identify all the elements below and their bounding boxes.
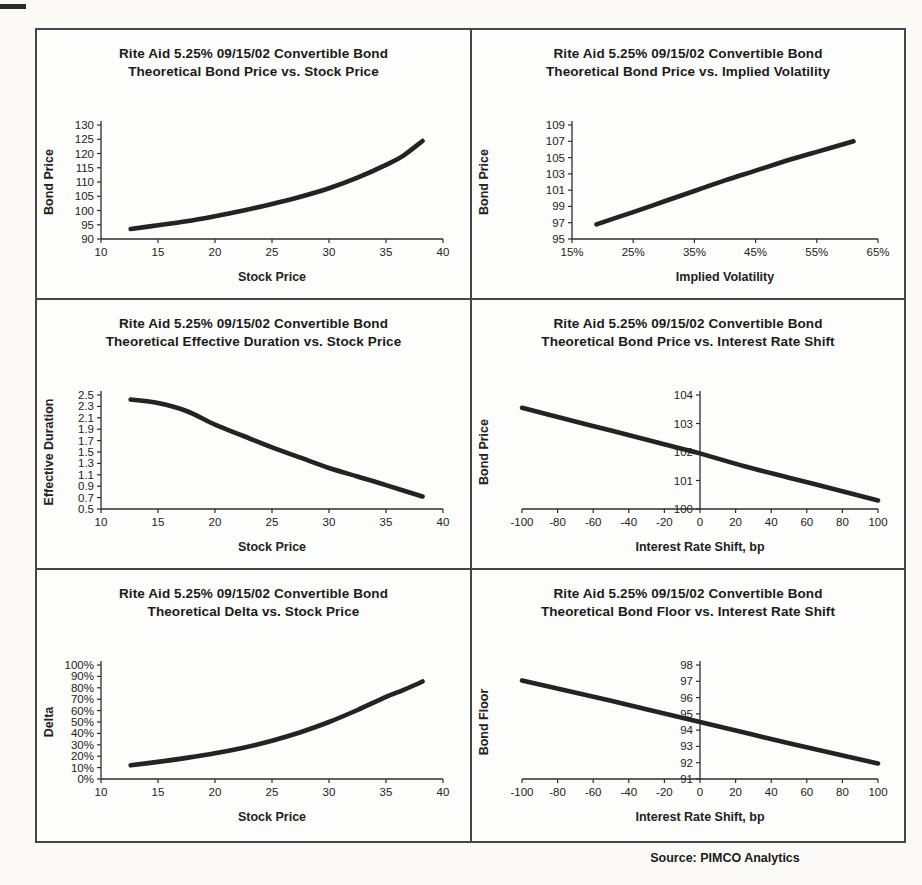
y-axis-title: Delta [42, 706, 56, 738]
y-tick-label: 110 [76, 176, 94, 188]
x-tick-label: 15 [152, 516, 165, 528]
x-tick-label: 25 [266, 786, 279, 798]
x-tick-label: 20 [209, 786, 222, 798]
x-tick-label: 60 [800, 516, 813, 528]
y-tick-label: 93 [680, 740, 693, 752]
y-tick-label: 40% [71, 727, 94, 739]
y-tick-label: 20% [71, 750, 94, 762]
y-tick-label: 80% [71, 682, 94, 694]
y-tick-label: 120 [75, 148, 94, 160]
x-tick-label: 55% [805, 246, 828, 258]
y-tick-label: 96 [680, 692, 693, 704]
y-tick-label: 30% [71, 739, 94, 751]
y-tick-label: 2.3 [78, 400, 94, 412]
y-tick-label: 95 [81, 219, 94, 231]
y-tick-label: 100 [674, 503, 693, 515]
x-tick-label: 20 [209, 516, 222, 528]
y-tick-label: 50% [71, 716, 94, 728]
plot-bond-price-vs-implied-volatility: 95979910110310510710915%25%35%45%55%65%B… [472, 93, 904, 295]
x-tick-label: 15 [152, 246, 165, 258]
y-tick-label: 101 [546, 184, 565, 196]
y-tick-label: 130 [75, 119, 94, 131]
chart-panel-bond-price-vs-stock-price: Rite Aid 5.25% 09/15/02 Convertible Bond… [37, 30, 472, 300]
x-tick-label: 100 [868, 786, 887, 798]
x-tick-label: 30 [323, 516, 336, 528]
chart-title: Rite Aid 5.25% 09/15/02 Convertible Bond… [472, 300, 904, 351]
chart-title-line1: Rite Aid 5.25% 09/15/02 Convertible Bond [37, 45, 470, 63]
chart-panel-bond-floor-vs-interest-rate-shift: Rite Aid 5.25% 09/15/02 Convertible Bond… [472, 570, 904, 841]
y-tick-label: 125 [75, 133, 94, 145]
scan-artifact [0, 4, 26, 9]
chart-title-line1: Rite Aid 5.25% 09/15/02 Convertible Bond [37, 585, 470, 603]
x-tick-label: -40 [620, 516, 637, 528]
x-tick-label: 35 [380, 246, 393, 258]
y-tick-label: 1.7 [78, 435, 94, 447]
y-tick-label: 1.1 [78, 469, 94, 481]
x-tick-label: 35 [380, 516, 393, 528]
chart-title-line1: Rite Aid 5.25% 09/15/02 Convertible Bond [472, 585, 904, 603]
x-tick-label: 60 [800, 786, 813, 798]
x-tick-label: 30 [323, 246, 336, 258]
x-tick-label: 10 [95, 246, 108, 258]
x-tick-label: -80 [549, 516, 566, 528]
y-tick-label: 103 [546, 168, 565, 180]
x-axis-title: Stock Price [238, 270, 306, 284]
chart-title-line2: Theoretical Delta vs. Stock Price [37, 603, 470, 621]
y-axis-title: Effective Duration [42, 399, 56, 506]
chart-title: Rite Aid 5.25% 09/15/02 Convertible Bond… [472, 570, 904, 621]
y-tick-label: 2.5 [78, 389, 94, 401]
x-tick-label: -40 [620, 786, 637, 798]
x-tick-label: 35 [380, 786, 393, 798]
x-tick-label: 20 [729, 786, 742, 798]
chart-panel-delta-vs-stock-price: Rite Aid 5.25% 09/15/02 Convertible Bond… [37, 570, 472, 841]
y-tick-label: 90 [81, 233, 94, 245]
x-tick-label: 80 [836, 786, 849, 798]
chart-panel-bond-price-vs-interest-rate-shift: Rite Aid 5.25% 09/15/02 Convertible Bond… [472, 300, 904, 570]
series-line [131, 141, 423, 229]
y-tick-label: 90% [71, 670, 94, 682]
x-tick-label: -80 [549, 786, 566, 798]
x-tick-label: -20 [656, 516, 673, 528]
chart-title-line1: Rite Aid 5.25% 09/15/02 Convertible Bond [472, 315, 904, 333]
y-tick-label: 105 [75, 190, 94, 202]
x-axis-title: Stock Price [238, 810, 306, 824]
x-tick-label: 25% [622, 246, 645, 258]
y-tick-label: 98 [680, 659, 693, 671]
y-tick-label: 99 [552, 200, 565, 212]
x-tick-label: 25 [266, 516, 279, 528]
y-tick-label: 0% [77, 773, 94, 785]
chart-panel-effective-duration-vs-stock-price: Rite Aid 5.25% 09/15/02 Convertible Bond… [37, 300, 472, 570]
y-tick-label: 95 [552, 233, 565, 245]
chart-title-line2: Theoretical Bond Floor vs. Interest Rate… [472, 603, 904, 621]
x-tick-label: 10 [95, 516, 108, 528]
plot-bond-price-vs-interest-rate-shift: 100101102103104-100-80-60-40-20020406080… [472, 363, 904, 565]
x-tick-label: -60 [585, 786, 602, 798]
y-tick-label: 0.5 [78, 503, 94, 515]
y-tick-label: 60% [71, 705, 94, 717]
x-axis-title: Stock Price [238, 540, 306, 554]
x-tick-label: 40 [765, 786, 778, 798]
report-sheet: Rite Aid 5.25% 09/15/02 Convertible Bond… [0, 0, 922, 885]
x-tick-label: 40 [437, 516, 450, 528]
x-tick-label: 65% [866, 246, 889, 258]
x-tick-label: 15 [152, 786, 165, 798]
chart-title: Rite Aid 5.25% 09/15/02 Convertible Bond… [37, 300, 470, 351]
y-tick-label: 103 [674, 418, 693, 430]
x-tick-label: 10 [95, 786, 108, 798]
y-tick-label: 97 [680, 675, 693, 687]
plot-delta-vs-stock-price: 0%10%20%30%40%50%60%70%80%90%100%1015202… [37, 633, 470, 835]
x-tick-label: 15% [560, 246, 583, 258]
y-tick-label: 1.5 [78, 446, 94, 458]
x-tick-label: -100 [510, 786, 533, 798]
x-axis-title: Interest Rate Shift, bp [635, 540, 765, 554]
chart-title-line2: Theoretical Bond Price vs. Implied Volat… [472, 63, 904, 81]
chart-title: Rite Aid 5.25% 09/15/02 Convertible Bond… [37, 30, 470, 81]
x-tick-label: 0 [697, 516, 703, 528]
chart-title-line2: Theoretical Effective Duration vs. Stock… [37, 333, 470, 351]
y-tick-label: 1.3 [78, 457, 94, 469]
chart-title-line2: Theoretical Bond Price vs. Interest Rate… [472, 333, 904, 351]
source-note: Source: PIMCO Analytics [560, 851, 890, 865]
x-tick-label: -100 [510, 516, 533, 528]
x-tick-label: 20 [209, 246, 222, 258]
plot-bond-price-vs-stock-price: 909510010511011512012513010152025303540B… [37, 93, 470, 295]
